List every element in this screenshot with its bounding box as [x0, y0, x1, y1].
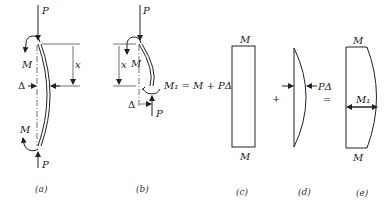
plus-operator: +: [272, 93, 280, 104]
caption-b: (b): [136, 184, 149, 194]
internal-moment-equation: M₁ = M + PΔ: [163, 80, 232, 91]
svg-text:P: P: [155, 108, 163, 119]
secondary-moment-diagram: [294, 48, 306, 147]
force-label-top: P: [41, 5, 49, 16]
panel-d: PΔ (d): [282, 48, 332, 197]
primary-moment-diagram: [232, 46, 255, 147]
deflection-label: Δ: [18, 80, 25, 91]
beam-column-diagram: P M M P Δ x (a) P M: [0, 0, 392, 206]
panel-c: M M (c): [232, 34, 255, 197]
panel-e: M₁ M M (e): [346, 35, 377, 198]
p-delta-label: PΔ: [317, 81, 332, 92]
svg-text:P: P: [142, 5, 150, 16]
panel-b: P M M₁ = M + PΔ P x Δ (b): [113, 5, 232, 194]
svg-text:M: M: [352, 35, 364, 46]
svg-text:M: M: [239, 34, 251, 45]
caption-d: (d): [298, 187, 311, 197]
force-label-bottom: P: [41, 159, 49, 170]
equals-operator: =: [323, 94, 331, 105]
caption-c: (c): [236, 187, 249, 197]
caption-a: (a): [35, 184, 48, 194]
moment-label-bottom: M: [19, 124, 31, 135]
caption-e: (e): [356, 188, 369, 198]
svg-text:M: M: [239, 151, 251, 162]
svg-text:x: x: [121, 59, 127, 70]
x-label: x: [75, 59, 81, 70]
svg-text:M: M: [130, 58, 142, 69]
svg-text:M: M: [352, 152, 364, 163]
m1-label: M₁: [355, 94, 370, 105]
moment-arrow-top: [25, 36, 40, 52]
moment-label-top: M: [21, 59, 33, 70]
svg-text:Δ: Δ: [128, 99, 135, 110]
panel-a: P M M P Δ x (a): [18, 5, 81, 194]
moment-arrow-bottom: [23, 138, 38, 151]
